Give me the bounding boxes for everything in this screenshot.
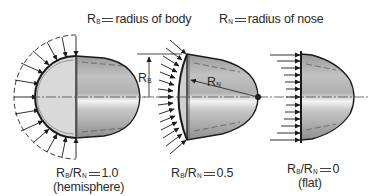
equals-dash	[204, 172, 215, 176]
flat-body	[258, 51, 370, 143]
nose-shape-diagram: RBradius of body RNradius of nose RB RN …	[0, 0, 378, 196]
caption-intermediate-ratio: RB/RN0.5	[171, 167, 233, 180]
equals-dash	[320, 168, 331, 172]
hemisphere-body	[14, 35, 145, 159]
legend-nose-radius: RNradius of nose	[219, 13, 324, 26]
intermediate-body	[137, 40, 262, 154]
legend-nose-radius-subscript: N	[228, 18, 233, 25]
legend-nose-radius-text: radius of nose	[248, 12, 324, 26]
legend-body-radius-subscript: B	[96, 18, 100, 25]
rn-dimension-label: RN	[207, 76, 221, 89]
caption-hemisphere-ratio: RB/RN1.0	[56, 167, 118, 180]
equals-dash	[235, 18, 246, 22]
rb-dimension-label: RB	[138, 72, 151, 85]
legend-nose-radius-symbol: R	[219, 12, 228, 26]
caption-hemisphere-name: (hemisphere)	[53, 181, 124, 194]
caption-flat-ratio: RB/RN0	[287, 163, 339, 176]
equals-dash	[102, 18, 113, 22]
legend-body-radius-text: radius of body	[115, 12, 191, 26]
legend-body-radius: RBradius of body	[87, 13, 191, 26]
legend-body-radius-symbol: R	[87, 12, 96, 26]
equals-dash	[89, 172, 100, 176]
caption-flat-name: (flat)	[298, 177, 322, 190]
